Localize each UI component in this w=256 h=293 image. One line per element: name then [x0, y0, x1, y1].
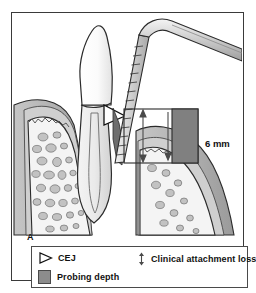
legend-box: CEJ Probing depth Clinical attachment lo… [31, 246, 248, 288]
legend-label-clinical-attachment-loss: Clinical attachment loss [151, 254, 256, 264]
probe-handle [139, 19, 242, 61]
double-arrow-icon [136, 252, 147, 266]
figure-frame: A 6 mm CEJ Probing depth Cli [11, 12, 244, 281]
legend-label-cej: CEJ [58, 253, 76, 263]
legend-item-probing-depth: Probing depth [38, 270, 119, 284]
periodontal-diagram-figure: A 6 mm CEJ Probing depth Cli [0, 0, 256, 293]
tooth-crown [80, 26, 112, 105]
legend-label-probing-depth: Probing depth [57, 272, 119, 282]
cej-triangle-icon [38, 252, 53, 264]
panel-letter: A [27, 232, 34, 242]
probing-depth-swatch-icon [38, 270, 51, 284]
legend-item-clinical-attachment-loss: Clinical attachment loss [136, 252, 256, 266]
legend-item-cej: CEJ [38, 252, 76, 264]
probing-depth-block [172, 109, 198, 163]
measurement-label: 6 mm [205, 138, 230, 149]
